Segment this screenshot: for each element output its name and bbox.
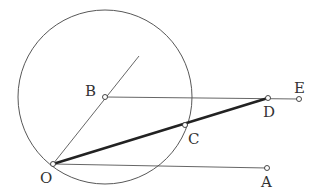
label-a: A: [260, 173, 272, 191]
point-a: [265, 166, 270, 171]
label-b: B: [85, 82, 96, 100]
point-b: [103, 95, 108, 100]
diagram-canvas: O A B C D E: [0, 0, 319, 196]
label-o: O: [40, 169, 52, 187]
label-e: E: [294, 79, 305, 97]
label-d: D: [263, 103, 275, 121]
point-e: [297, 97, 302, 102]
point-o: [51, 162, 56, 167]
label-c: C: [188, 130, 199, 148]
ray-from-o-through-b: [53, 56, 139, 164]
geometry-diagram: O A B C D E: [0, 0, 319, 196]
point-c: [183, 123, 188, 128]
segment-od-thick: [53, 98, 268, 164]
point-d: [266, 96, 271, 101]
